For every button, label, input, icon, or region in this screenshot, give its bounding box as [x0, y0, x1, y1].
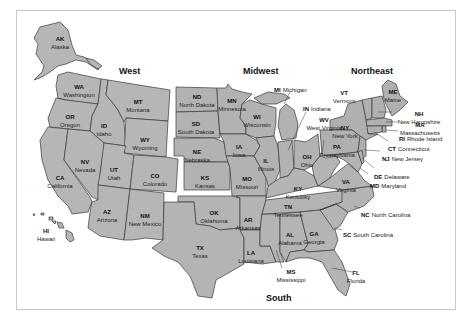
- label-la: LALouisiana: [238, 249, 264, 265]
- label-az: AZArizona: [97, 208, 117, 224]
- label-il: ILIllinois: [258, 157, 275, 173]
- label-tx: TXTexas: [192, 244, 208, 260]
- label-ky: KYKentucky: [286, 185, 311, 201]
- label-ok: OKOklahoma: [200, 209, 227, 225]
- label-tn: TNTennessee: [273, 203, 302, 219]
- label-ar: ARArkansas: [235, 216, 260, 232]
- label-nd: NDNorth Dakota: [179, 93, 214, 109]
- region-label-midwest: Midwest: [243, 66, 279, 76]
- label-wa: WAWashington: [63, 83, 94, 99]
- label-nc: NCNorth Carolina: [361, 212, 410, 219]
- label-co: COColorado: [143, 172, 167, 188]
- label-fl: FLFlorida: [347, 269, 365, 285]
- label-sd: SDSouth Dakota: [178, 120, 214, 136]
- label-ms: MSMississippi: [276, 268, 305, 284]
- label-mi: MIMichigan: [274, 87, 307, 94]
- region-label-south: South: [266, 293, 292, 303]
- label-sc: SCSouth Carolina: [343, 232, 393, 239]
- label-mo: MOMissouri: [236, 175, 258, 191]
- label-wy: WYWyoming: [133, 136, 158, 152]
- label-ne: NENebraska: [184, 148, 210, 164]
- label-wv: WVWest Virginia: [306, 116, 341, 132]
- label-ia: IAIowa: [233, 143, 246, 159]
- label-de: DEDelaware: [374, 174, 410, 181]
- hawaii-islands: [33, 213, 64, 228]
- label-va: VAVirginia: [336, 178, 356, 194]
- label-me: MEMaine: [385, 88, 401, 104]
- label-nj: NJNew Jersey: [382, 156, 423, 163]
- label-mt: MTMontana: [126, 98, 149, 114]
- label-ca: CACalifornia: [47, 174, 72, 190]
- label-or: OROregon: [60, 113, 80, 129]
- label-hi: HIHawaii: [37, 227, 55, 243]
- state-ak[interactable]: [34, 22, 100, 80]
- region-label-west: West: [119, 66, 140, 76]
- label-nm: NMNew Mexico: [129, 212, 162, 228]
- label-al: ALAlabama: [278, 231, 302, 247]
- label-pa: PAPennsylvania: [319, 143, 355, 159]
- region-label-northeast: Northeast: [351, 66, 393, 76]
- label-in: INIndiana: [303, 106, 331, 113]
- label-id: IDIdaho: [96, 122, 111, 138]
- label-ks: KSKansas: [195, 174, 215, 190]
- label-ak: AKAlaska: [51, 35, 69, 51]
- label-nv: NVNevada: [75, 158, 96, 174]
- label-ct: CTConnecticut: [388, 146, 430, 153]
- state-hi[interactable]: [66, 230, 74, 242]
- label-ga: GAGeorgia: [303, 230, 324, 246]
- label-md: MDMaryland: [370, 183, 406, 190]
- state-ri[interactable]: [382, 126, 386, 132]
- label-ri: RIRhode Island: [399, 136, 442, 143]
- label-ma: MAMassachusetts: [400, 121, 440, 137]
- label-ut: UTUtah: [108, 166, 121, 182]
- label-wi: WIWisconsin: [243, 113, 270, 129]
- state-ct[interactable]: [366, 126, 382, 134]
- label-mn: MNMinnesota: [218, 97, 246, 113]
- label-oh: OHOhio: [301, 153, 314, 169]
- label-vt: VTVermont: [333, 89, 355, 105]
